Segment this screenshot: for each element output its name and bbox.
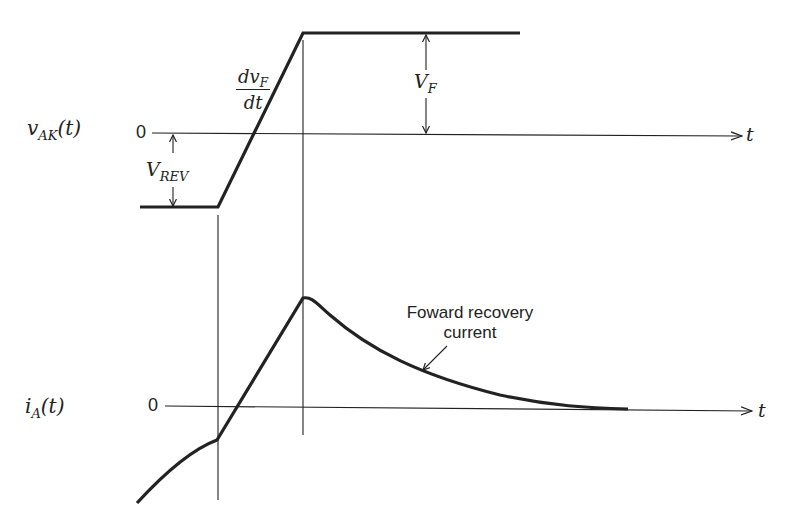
- upper-zero-label: 0: [136, 123, 146, 141]
- voltage-waveform: [140, 33, 520, 207]
- lower-ylabel-subscript: A: [31, 406, 40, 421]
- vrev-subscript: REV: [160, 169, 189, 184]
- lower-t-label: t: [758, 401, 766, 420]
- slope-numerator-subscript: F: [260, 76, 268, 90]
- lower-ylabel: iA(t): [25, 396, 64, 416]
- slope-label: dvF dt: [236, 66, 270, 113]
- vf-subscript: F: [428, 81, 437, 96]
- slope-denominator: dt: [236, 90, 270, 113]
- lower-zero-label: 0: [148, 396, 158, 414]
- upper-ylabel: vAK(t): [27, 118, 81, 138]
- vf-label: VF: [414, 72, 437, 91]
- upper-time-axis: [152, 133, 742, 136]
- callout-arrow: [423, 346, 447, 370]
- slope-numerator: dv: [238, 66, 260, 87]
- callout-label: Foward recovery current: [396, 303, 544, 343]
- vrev-label: VREV: [146, 160, 188, 179]
- lower-ylabel-arg: (t): [41, 394, 65, 418]
- upper-ylabel-subscript: AK: [38, 128, 57, 143]
- upper-ylabel-symbol: v: [27, 116, 38, 140]
- current-waveform: [137, 298, 628, 503]
- vrev-symbol: V: [146, 158, 160, 180]
- upper-t-label: t: [746, 125, 754, 144]
- vf-symbol: V: [414, 70, 428, 92]
- callout-line-2: current: [396, 323, 544, 343]
- lower-time-axis: [165, 406, 752, 411]
- waveform-diagram: [0, 0, 792, 525]
- callout-line-1: Foward recovery: [396, 303, 544, 323]
- upper-ylabel-arg: (t): [57, 116, 81, 140]
